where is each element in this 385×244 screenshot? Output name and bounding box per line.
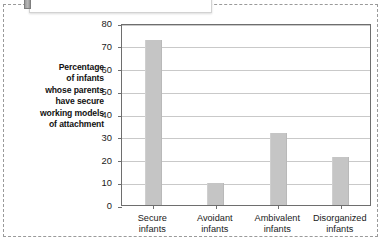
y-axis-tick-mark	[118, 70, 122, 71]
bar	[145, 40, 162, 205]
y-axis-tick-mark	[118, 161, 122, 162]
y-axis-tick-mark	[118, 184, 122, 185]
x-axis-tick-mark	[341, 205, 342, 209]
x-axis-tick-mark	[278, 205, 279, 209]
y-axis-label-line: of infants	[16, 73, 104, 84]
y-axis-tick-label: 20	[88, 156, 112, 165]
bar	[207, 183, 224, 205]
gridline	[122, 25, 370, 26]
page-tab-marker-icon	[24, 0, 31, 9]
y-axis-tick-mark	[118, 207, 122, 208]
y-axis-tick-mark	[118, 116, 122, 117]
previous-block-caption-box: (van IJzendoorn, 1995).	[29, 0, 212, 13]
y-axis-label-line: of attachment	[16, 119, 104, 130]
y-axis-label-line: have secure	[16, 96, 104, 107]
x-axis-tick-label: Disorganizedinfants	[303, 213, 377, 235]
y-axis-tick-mark	[118, 25, 122, 26]
y-axis-tick-label: 40	[88, 110, 112, 119]
y-axis-tick-label: 50	[88, 87, 112, 96]
y-axis-tick-mark	[118, 93, 122, 94]
y-axis-tick-label: 30	[88, 133, 112, 142]
plot-area	[121, 24, 371, 206]
y-axis-tick-label: 60	[88, 65, 112, 74]
x-axis-tick-mark	[153, 205, 154, 209]
x-axis-tick-mark	[216, 205, 217, 209]
x-axis-tick-label-line: infants	[303, 224, 377, 235]
y-axis-tick-mark	[118, 47, 122, 48]
y-axis-tick-label: 10	[88, 178, 112, 187]
y-axis-tick-label: 0	[88, 201, 112, 210]
bar-chart: Percentage of infants whose parents have…	[0, 0, 385, 244]
x-axis-tick-label-line: Disorganized	[303, 213, 377, 224]
y-axis-tick-label: 80	[88, 19, 112, 28]
bar	[270, 133, 287, 205]
y-axis-tick-mark	[118, 138, 122, 139]
y-axis-tick-label: 70	[88, 42, 112, 51]
bar	[332, 157, 349, 205]
